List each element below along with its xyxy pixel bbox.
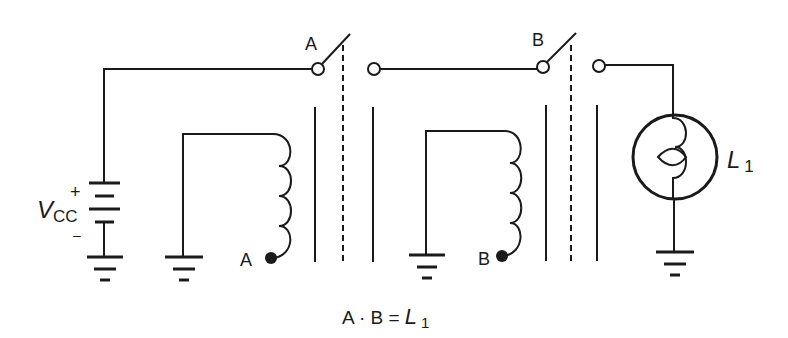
lamp-label: L1 xyxy=(727,146,754,176)
relay-a-coil xyxy=(183,134,291,264)
lamp-wire xyxy=(605,65,673,114)
plus-sign: + xyxy=(70,182,81,202)
ground-icon xyxy=(87,257,123,280)
ground-icon xyxy=(165,257,203,280)
lamp-icon xyxy=(633,115,717,251)
switch-a-label: A xyxy=(305,34,317,54)
relay-and-circuit-diagram: + – VCC A A B xyxy=(0,0,788,338)
ground-icon xyxy=(656,252,694,275)
relay-a-switch xyxy=(312,34,380,262)
logic-equation: A · B = L1 xyxy=(342,304,429,331)
switch-b-label: B xyxy=(532,30,544,50)
relay-b-switch xyxy=(537,33,605,262)
battery-symbol xyxy=(89,183,120,257)
minus-sign: – xyxy=(73,227,81,243)
coil-b-label: B xyxy=(478,249,490,269)
relay-b-coil xyxy=(426,131,521,262)
ground-icon xyxy=(409,255,445,278)
coil-a-label: A xyxy=(240,250,252,270)
